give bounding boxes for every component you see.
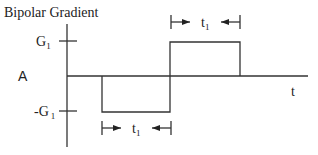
y-axis-label: A <box>18 68 28 84</box>
duration-arrow-bottom: t1 <box>102 121 171 138</box>
bipolar-gradient-diagram: Bipolar Gradient G1 -G1 A t t1 t1 <box>0 0 318 155</box>
t1-label-top: t1 <box>201 15 209 32</box>
diagram-title: Bipolar Gradient <box>4 5 99 20</box>
t1-label-bottom: t1 <box>132 121 140 138</box>
g1-label: G1 <box>36 34 51 51</box>
x-axis-label: t <box>291 84 295 99</box>
neg-g1-label: -G1 <box>34 104 55 121</box>
negative-lobe <box>102 76 170 112</box>
duration-arrow-top: t1 <box>171 15 240 32</box>
positive-lobe <box>170 42 240 76</box>
